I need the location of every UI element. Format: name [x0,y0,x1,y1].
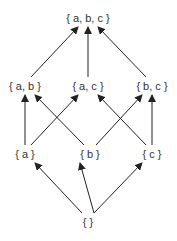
node-bc: { b, c } [136,80,168,92]
node-a: { a } [15,148,35,160]
edge-a-to-ac [31,95,78,145]
edge-c-to-ac [98,95,146,145]
hasse-diagram: { a, b, c } { a, b } { a, c } { b, c } {… [0,0,177,241]
nodes-group: { a, b, c } { a, b } { a, c } { b, c } {… [9,12,168,228]
edge-b-to-bc [96,95,142,145]
node-ab: { a, b } [9,80,41,92]
node-abc: { a, b, c } [66,12,110,24]
edge-b-to-ab [35,95,84,145]
edge-empty-to-b [80,163,94,213]
edge-empty-to-c [94,163,142,213]
node-b: { b } [80,148,100,160]
node-empty: { } [83,216,94,228]
node-c: { c } [143,148,162,160]
node-ac: { a, c } [72,80,104,92]
edges-group [25,27,152,213]
edge-empty-to-a [35,163,82,213]
edge-bc-to-abc [98,27,146,77]
edge-ab-to-abc [31,27,78,77]
